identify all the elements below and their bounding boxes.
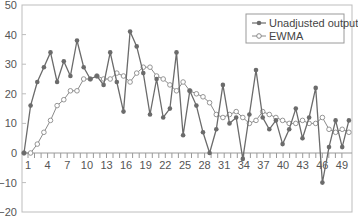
filled-circle-marker-icon — [148, 112, 153, 117]
filled-circle-marker-icon — [134, 44, 139, 49]
filled-circle-marker-icon — [42, 65, 47, 70]
filled-circle-marker-icon — [257, 21, 262, 26]
open-circle-marker-icon — [320, 115, 325, 120]
open-circle-marker-icon — [174, 89, 179, 94]
filled-circle-marker-icon — [340, 145, 345, 150]
filled-circle-marker-icon — [234, 115, 239, 120]
x-tick-label: 40 — [277, 159, 289, 171]
x-tick-label: 31 — [218, 159, 230, 171]
filled-circle-marker-icon — [347, 118, 352, 123]
y-tick-label: −20 — [0, 206, 17, 218]
y-tick-label: 40 — [5, 29, 17, 41]
filled-circle-marker-icon — [88, 77, 93, 82]
filled-circle-marker-icon — [55, 80, 60, 85]
filled-circle-marker-icon — [247, 112, 252, 117]
y-tick-label: 10 — [5, 117, 17, 129]
open-circle-marker-icon — [347, 130, 352, 135]
open-circle-marker-icon — [294, 121, 299, 126]
filled-circle-marker-icon — [35, 80, 40, 85]
open-circle-marker-icon — [201, 95, 206, 100]
x-tick-label: 4 — [45, 159, 51, 171]
filled-circle-marker-icon — [115, 80, 120, 85]
y-tick-label: 0 — [11, 147, 17, 159]
open-circle-marker-icon — [108, 77, 113, 82]
filled-circle-marker-icon — [280, 142, 285, 147]
open-circle-marker-icon — [81, 77, 86, 82]
filled-circle-marker-icon — [287, 127, 292, 132]
open-circle-marker-icon — [313, 121, 318, 126]
x-tick-label: 49 — [336, 159, 348, 171]
open-circle-marker-icon — [221, 115, 226, 120]
open-circle-marker-icon — [148, 65, 153, 70]
filled-circle-marker-icon — [181, 133, 186, 138]
open-circle-marker-icon — [75, 89, 80, 94]
filled-circle-marker-icon — [313, 86, 318, 91]
filled-circle-marker-icon — [241, 157, 246, 162]
open-circle-marker-icon — [234, 109, 239, 114]
filled-circle-marker-icon — [68, 74, 73, 79]
legend-label-unadjusted: Unadjusted output — [269, 17, 358, 29]
filled-circle-marker-icon — [154, 77, 159, 82]
filled-circle-marker-icon — [214, 127, 219, 132]
open-circle-marker-icon — [300, 118, 305, 123]
filled-circle-marker-icon — [174, 50, 179, 55]
filled-circle-marker-icon — [81, 65, 86, 70]
open-circle-marker-icon — [333, 130, 338, 135]
filled-circle-marker-icon — [207, 151, 212, 156]
x-tick-label: 28 — [198, 159, 210, 171]
open-circle-marker-icon — [35, 142, 40, 147]
open-circle-marker-icon — [161, 77, 166, 82]
x-tick-label: 10 — [81, 159, 93, 171]
open-circle-marker-icon — [68, 89, 73, 94]
legend: Unadjusted output EWMA — [246, 14, 358, 43]
filled-circle-marker-icon — [327, 145, 332, 150]
filled-circle-marker-icon — [48, 50, 53, 55]
filled-circle-marker-icon — [221, 83, 226, 88]
open-circle-marker-icon — [340, 127, 345, 132]
filled-circle-marker-icon — [254, 68, 259, 73]
x-tick-label: 22 — [159, 159, 171, 171]
legend-label-ewma: EWMA — [269, 30, 304, 42]
filled-circle-marker-icon — [333, 118, 338, 123]
filled-circle-marker-icon — [161, 115, 166, 120]
filled-circle-marker-icon — [267, 127, 272, 132]
open-circle-marker-icon — [194, 92, 199, 97]
filled-circle-marker-icon — [128, 29, 133, 34]
filled-circle-marker-icon — [307, 115, 312, 120]
x-tick-label: 19 — [140, 159, 152, 171]
y-tick-label: −10 — [0, 177, 17, 189]
open-circle-marker-icon — [62, 97, 67, 102]
y-tick-label: 50 — [5, 0, 17, 11]
x-tick-label: 25 — [179, 159, 191, 171]
open-circle-marker-icon — [254, 118, 259, 123]
open-circle-marker-icon — [327, 127, 332, 132]
x-tick-label: 16 — [120, 159, 132, 171]
open-circle-marker-icon — [257, 34, 262, 39]
x-tick-label: 43 — [297, 159, 309, 171]
open-circle-marker-icon — [207, 100, 212, 105]
filled-circle-marker-icon — [294, 106, 299, 111]
filled-circle-marker-icon — [194, 103, 199, 108]
open-circle-marker-icon — [55, 103, 60, 108]
x-tick-label: 1 — [25, 159, 31, 171]
y-tick-label: 20 — [5, 88, 17, 100]
open-circle-marker-icon — [267, 112, 272, 117]
filled-circle-marker-icon — [95, 74, 100, 79]
x-tick-label: 13 — [100, 159, 112, 171]
filled-circle-marker-icon — [227, 121, 232, 126]
filled-circle-marker-icon — [201, 130, 206, 135]
line-chart: 50403020100−10−20 1471013161922252831343… — [0, 0, 358, 223]
filled-circle-marker-icon — [320, 180, 325, 185]
filled-circle-marker-icon — [168, 106, 173, 111]
filled-circle-marker-icon — [62, 59, 67, 64]
open-circle-marker-icon — [134, 71, 139, 76]
filled-circle-marker-icon — [101, 83, 106, 88]
filled-circle-marker-icon — [188, 89, 193, 94]
y-tick-label: 30 — [5, 58, 17, 70]
open-circle-marker-icon — [42, 130, 47, 135]
open-circle-marker-icon — [181, 80, 186, 85]
filled-circle-marker-icon — [22, 151, 27, 156]
x-tick-label: 7 — [64, 159, 70, 171]
open-circle-marker-icon — [121, 74, 126, 79]
open-circle-marker-icon — [241, 115, 246, 120]
